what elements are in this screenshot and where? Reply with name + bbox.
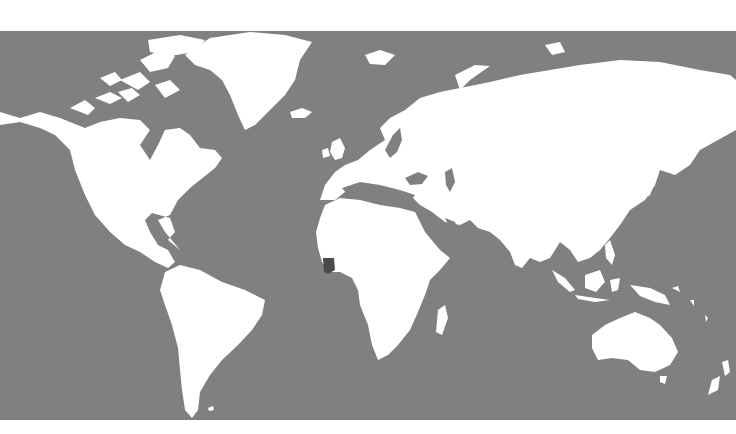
world-map: World map [0, 31, 736, 420]
